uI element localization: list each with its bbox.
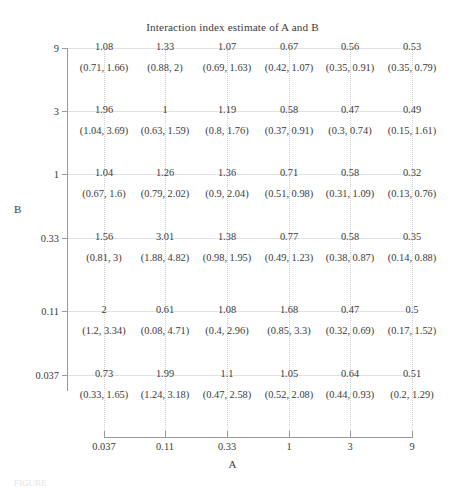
cell-b0.33-a3: 0.58(0.38, 0.87) [326, 231, 374, 264]
cell-estimate: 0.5 [388, 304, 436, 316]
cell-estimate: 1.07 [203, 41, 251, 53]
x-tick-4 [350, 431, 351, 437]
cell-confidence-interval: (0.38, 0.87) [326, 252, 374, 264]
cell-confidence-interval: (0.81, 3) [86, 252, 122, 264]
cell-b3-a0.33: 1.19(0.8, 1.76) [205, 104, 248, 137]
cell-confidence-interval: (0.51, 0.98) [265, 188, 313, 200]
x-axis-title: A [0, 458, 465, 470]
cell-estimate: 1.1 [203, 368, 251, 380]
cell-b1-a1: 0.71(0.51, 0.98) [265, 167, 313, 200]
y-axis-line [67, 48, 68, 391]
cell-b0.33-a1: 0.77(0.49, 1.23) [265, 231, 313, 264]
cell-b0.11-a0.11: 0.61(0.08, 4.71) [141, 304, 189, 337]
y-tick-3 [62, 238, 68, 239]
cell-estimate: 0.71 [265, 167, 313, 179]
y-tick-label-1: 3 [54, 106, 59, 117]
y-tick-label-3: 0.33 [41, 233, 59, 244]
cell-b0.33-a0.33: 1.38(0.98, 1.95) [203, 231, 251, 264]
cell-confidence-interval: (1.04, 3.69) [80, 125, 128, 137]
figure-caption-remnant: FIGURE [14, 478, 164, 487]
cell-confidence-interval: (0.47, 2.58) [203, 389, 251, 401]
cell-b1-a0.037: 1.04(0.67, 1.6) [82, 167, 125, 200]
y-tick-2 [62, 174, 68, 175]
cell-estimate: 0.61 [141, 304, 189, 316]
cell-confidence-interval: (0.69, 1.63) [203, 62, 251, 74]
cell-b0.33-a0.037: 1.56(0.81, 3) [86, 231, 122, 264]
cell-b0.037-a1: 1.05(0.52, 2.08) [265, 368, 313, 401]
cell-b0.11-a3: 0.47(0.32, 0.69) [326, 304, 374, 337]
cell-estimate: 1 [141, 104, 189, 116]
x-tick-label-0: 0.037 [92, 441, 115, 452]
cell-confidence-interval: (0.08, 4.71) [141, 325, 189, 337]
cell-estimate: 0.58 [265, 104, 313, 116]
cell-confidence-interval: (0.33, 1.65) [80, 389, 128, 401]
cell-confidence-interval: (0.13, 0.76) [388, 188, 436, 200]
cell-confidence-interval: (0.49, 1.23) [265, 252, 313, 264]
interaction-index-figure: Interaction index estimate of A and B 1.… [0, 0, 465, 489]
cell-confidence-interval: (0.67, 1.6) [82, 188, 125, 200]
y-tick-1 [62, 111, 68, 112]
cell-estimate: 1.05 [265, 368, 313, 380]
cell-estimate: 1.99 [141, 368, 189, 380]
cell-b0.11-a1: 1.68(0.85, 3.3) [267, 304, 310, 337]
cell-estimate: 1.56 [86, 231, 122, 243]
cell-b0.037-a0.037: 0.73(0.33, 1.65) [80, 368, 128, 401]
y-tick-label-4: 0.11 [41, 306, 59, 317]
x-tick-2 [227, 431, 228, 437]
cell-estimate: 0.73 [80, 368, 128, 380]
cell-b0.037-a3: 0.64(0.44, 0.93) [326, 368, 374, 401]
cell-confidence-interval: (0.37, 0.91) [265, 125, 313, 137]
cell-estimate: 0.58 [326, 167, 374, 179]
cell-confidence-interval: (0.35, 0.79) [388, 62, 436, 74]
x-tick-label-3: 1 [286, 441, 291, 452]
cell-estimate: 1.96 [80, 104, 128, 116]
cell-b0.037-a0.33: 1.1(0.47, 2.58) [203, 368, 251, 401]
x-tick-label-5: 9 [409, 441, 414, 452]
y-tick-label-5: 0.037 [36, 370, 59, 381]
cell-b3-a0.037: 1.96(1.04, 3.69) [80, 104, 128, 137]
cell-b0.11-a0.037: 2(1.2, 3.34) [82, 304, 125, 337]
cell-estimate: 0.58 [326, 231, 374, 243]
cell-confidence-interval: (0.32, 0.69) [326, 325, 374, 337]
cell-b1-a9: 0.32(0.13, 0.76) [388, 167, 436, 200]
cell-confidence-interval: (0.85, 3.3) [267, 325, 310, 337]
cell-estimate: 0.77 [265, 231, 313, 243]
cell-b3-a0.11: 1(0.63, 1.59) [141, 104, 189, 137]
cell-estimate: 1.33 [147, 41, 183, 53]
y-axis-title: B [14, 203, 21, 215]
cell-estimate: 1.36 [205, 167, 248, 179]
cell-confidence-interval: (0.79, 2.02) [141, 188, 189, 200]
cell-estimate: 1.68 [267, 304, 310, 316]
x-tick-1 [165, 431, 166, 437]
x-axis-line [104, 437, 413, 438]
cell-b1-a0.11: 1.26(0.79, 2.02) [141, 167, 189, 200]
cell-estimate: 0.64 [326, 368, 374, 380]
cell-estimate: 1.08 [205, 304, 248, 316]
cell-estimate: 1.04 [82, 167, 125, 179]
cell-b0.33-a0.11: 3.01(1.88, 4.82) [141, 231, 189, 264]
x-tick-label-2: 0.33 [218, 441, 236, 452]
cell-confidence-interval: (0.8, 1.76) [205, 125, 248, 137]
cell-b1-a0.33: 1.36(0.9, 2.04) [205, 167, 248, 200]
cell-confidence-interval: (0.71, 1.66) [80, 62, 128, 74]
cell-estimate: 0.32 [388, 167, 436, 179]
cell-confidence-interval: (0.17, 1.52) [388, 325, 436, 337]
y-tick-0 [62, 48, 68, 49]
cell-b3-a3: 0.47(0.3, 0.74) [328, 104, 371, 137]
cell-estimate: 1.38 [203, 231, 251, 243]
y-tick-label-0: 9 [54, 43, 59, 54]
cell-confidence-interval: (0.15, 1.61) [388, 125, 436, 137]
cell-b9-a0.33: 1.07(0.69, 1.63) [203, 41, 251, 74]
cell-b1-a3: 0.58(0.31, 1.09) [326, 167, 374, 200]
cell-b9-a0.037: 1.08(0.71, 1.66) [80, 41, 128, 74]
cell-estimate: 0.53 [388, 41, 436, 53]
cell-b9-a1: 0.67(0.42, 1.07) [265, 41, 313, 74]
cell-confidence-interval: (0.42, 1.07) [265, 62, 313, 74]
cell-b3-a1: 0.58(0.37, 0.91) [265, 104, 313, 137]
cell-confidence-interval: (1.88, 4.82) [141, 252, 189, 264]
cell-confidence-interval: (0.63, 1.59) [141, 125, 189, 137]
x-tick-5 [412, 431, 413, 437]
cell-confidence-interval: (0.98, 1.95) [203, 252, 251, 264]
cell-confidence-interval: (0.2, 1.29) [390, 389, 433, 401]
cell-estimate: 0.67 [265, 41, 313, 53]
